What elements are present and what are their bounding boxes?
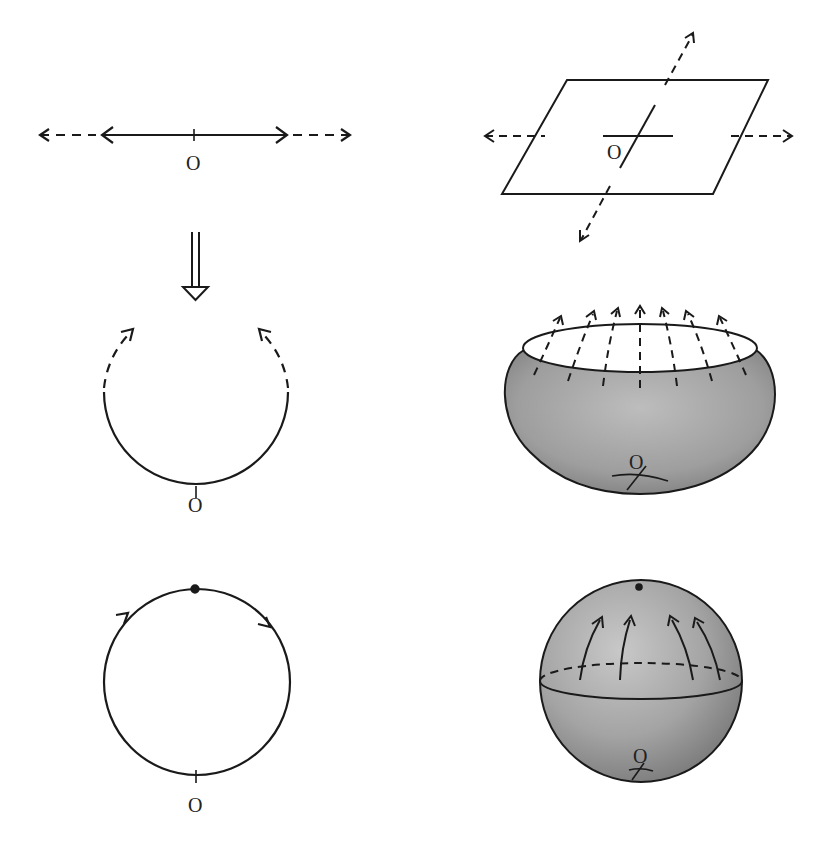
real-line-panel — [40, 127, 350, 143]
arrowhead-arc-left-icon — [121, 329, 133, 341]
origin-label-line: O — [186, 152, 200, 174]
sphere-panel: O — [540, 580, 742, 782]
origin-label-sphere: O — [633, 745, 647, 767]
circle-panel — [104, 585, 290, 783]
compactification-diagram: O O O — [0, 0, 825, 844]
origin-label-bowl: O — [629, 451, 643, 473]
arrowhead-plane-down-icon — [580, 230, 589, 241]
solid-arc — [104, 392, 288, 484]
double-arrow-down-icon — [183, 232, 208, 300]
origin-label-circle: O — [188, 794, 202, 816]
dashed-arc-right — [262, 333, 288, 388]
origin-label-open-circle: O — [188, 494, 202, 516]
arrowhead-arc-right-icon — [259, 329, 271, 341]
origin-label-plane: O — [607, 141, 621, 163]
point-at-infinity — [635, 583, 643, 591]
open-circle-panel — [104, 329, 288, 498]
bowl-panel: O — [505, 306, 775, 494]
plane-panel — [485, 33, 792, 241]
dashed-arc-left — [104, 333, 130, 388]
point-at-infinity — [191, 585, 198, 592]
closed-circle — [104, 589, 290, 775]
dashed-y-up — [665, 34, 693, 85]
